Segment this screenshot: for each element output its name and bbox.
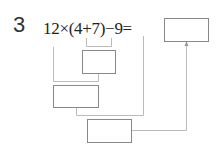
step-box-2[interactable] (53, 85, 99, 108)
step-box-1[interactable] (82, 50, 116, 74)
answer-box[interactable] (164, 18, 209, 42)
step-box-3[interactable] (87, 119, 132, 143)
